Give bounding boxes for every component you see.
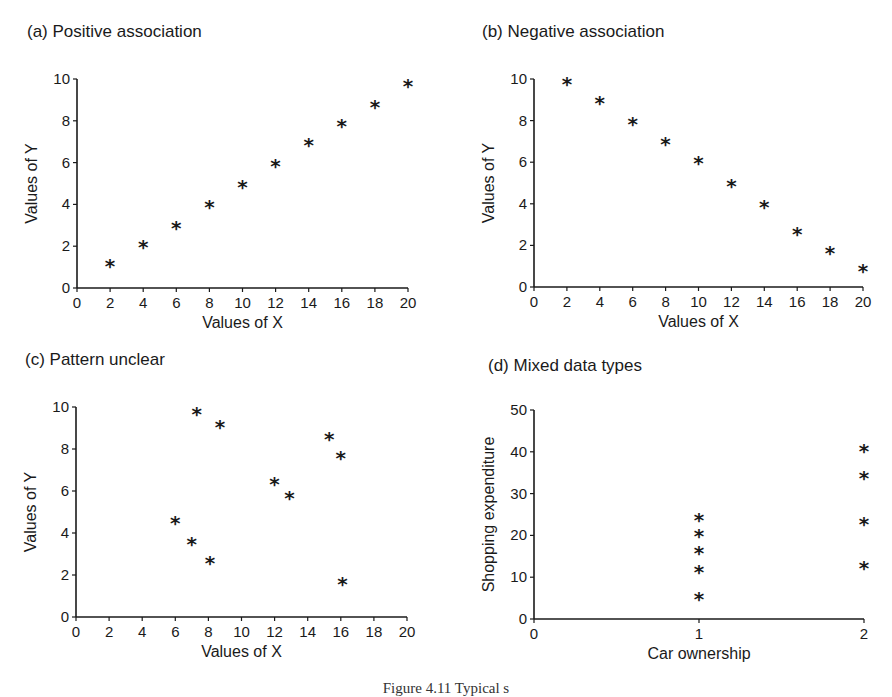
x-tick-label: 20: [855, 293, 872, 310]
x-tick-label: 6: [629, 293, 637, 310]
figure-caption: Figure 4.11 Typical s: [0, 680, 892, 697]
data-point-asterisk-icon: *: [825, 241, 836, 265]
scatter-plot-c: 024681012141618200246810Values of XValue…: [0, 340, 446, 660]
x-tick-label: 18: [367, 294, 384, 311]
y-tick-label: 0: [61, 608, 69, 625]
y-tick-label: 10: [510, 70, 527, 87]
data-point-asterisk-icon: *: [303, 133, 314, 157]
panel-c-pattern-unclear: (c) Pattern unclear 02468101214161820024…: [0, 340, 446, 660]
y-axis-label: Shopping expenditure: [480, 437, 497, 593]
data-point-asterisk-icon: *: [237, 175, 248, 199]
x-tick-label: 10: [233, 623, 250, 640]
y-tick-label: 50: [510, 401, 527, 418]
scatter-plot-b: 024681012141618200246810Values of XValue…: [446, 0, 892, 340]
y-tick-label: 2: [519, 236, 527, 253]
data-point-asterisk-icon: *: [859, 556, 870, 580]
y-tick-label: 8: [62, 112, 70, 129]
x-tick-label: 14: [299, 623, 316, 640]
x-axis-label: Values of X: [201, 643, 282, 660]
y-tick-label: 6: [61, 482, 69, 499]
panel-b-negative-association: (b) Negative association 024681012141618…: [446, 0, 892, 340]
data-point-asterisk-icon: *: [170, 511, 181, 535]
x-tick-label: 14: [756, 293, 773, 310]
scatter-plot-d: 01201020304050Car ownershipShopping expe…: [446, 340, 892, 660]
data-point-asterisk-icon: *: [337, 572, 348, 596]
x-axis-label: Car ownership: [647, 645, 750, 662]
data-point-asterisk-icon: *: [370, 95, 381, 119]
data-point-asterisk-icon: *: [105, 254, 116, 278]
data-point-asterisk-icon: *: [595, 91, 606, 115]
data-point-asterisk-icon: *: [759, 195, 770, 219]
x-tick-label: 4: [596, 293, 604, 310]
x-tick-label: 20: [400, 294, 417, 311]
y-tick-label: 0: [62, 279, 70, 296]
x-tick-label: 8: [661, 293, 669, 310]
x-tick-label: 2: [860, 625, 868, 642]
y-tick-label: 6: [519, 153, 527, 170]
x-tick-label: 6: [171, 623, 179, 640]
data-point-asterisk-icon: *: [403, 74, 414, 98]
data-point-asterisk-icon: *: [627, 112, 638, 136]
x-tick-label: 12: [723, 293, 740, 310]
y-axis-label: Values of Y: [23, 143, 40, 224]
y-tick-label: 8: [519, 112, 527, 129]
data-point-asterisk-icon: *: [337, 114, 348, 138]
data-point-asterisk-icon: *: [859, 512, 870, 536]
x-tick-label: 14: [300, 294, 317, 311]
x-tick-label: 0: [72, 623, 80, 640]
x-tick-label: 18: [822, 293, 839, 310]
data-point-asterisk-icon: *: [324, 427, 335, 451]
y-axis-label: Values of Y: [480, 143, 497, 224]
data-point-asterisk-icon: *: [726, 174, 737, 198]
data-point-asterisk-icon: *: [660, 132, 671, 156]
data-point-asterisk-icon: *: [693, 151, 704, 175]
x-tick-label: 12: [267, 294, 284, 311]
y-tick-label: 4: [62, 195, 70, 212]
y-tick-label: 0: [519, 610, 527, 627]
x-tick-label: 16: [333, 294, 350, 311]
x-tick-label: 20: [399, 623, 416, 640]
y-axis-label: Values of Y: [22, 472, 39, 553]
data-point-asterisk-icon: *: [562, 72, 573, 96]
x-tick-label: 10: [234, 294, 251, 311]
data-point-asterisk-icon: *: [215, 415, 226, 439]
y-tick-label: 4: [61, 524, 69, 541]
data-point-asterisk-icon: *: [792, 222, 803, 246]
x-tick-label: 8: [205, 294, 213, 311]
data-point-asterisk-icon: *: [284, 486, 295, 510]
data-point-asterisk-icon: *: [269, 472, 280, 496]
data-point-asterisk-icon: *: [205, 551, 216, 575]
y-tick-label: 2: [61, 566, 69, 583]
data-point-asterisk-icon: *: [187, 532, 198, 556]
y-tick-label: 10: [510, 568, 527, 585]
x-tick-label: 2: [563, 293, 571, 310]
data-point-asterisk-icon: *: [138, 235, 149, 259]
data-point-asterisk-icon: *: [859, 439, 870, 463]
x-axis-label: Values of X: [202, 314, 283, 331]
x-tick-label: 10: [690, 293, 707, 310]
data-point-asterisk-icon: *: [192, 402, 203, 426]
x-tick-label: 4: [138, 623, 146, 640]
y-tick-label: 10: [53, 70, 70, 87]
x-tick-label: 0: [73, 294, 81, 311]
x-tick-label: 16: [789, 293, 806, 310]
x-axis-label: Values of X: [658, 313, 739, 330]
x-tick-label: 2: [105, 623, 113, 640]
x-tick-label: 16: [332, 623, 349, 640]
data-point-asterisk-icon: *: [204, 195, 215, 219]
x-tick-label: 6: [172, 294, 180, 311]
x-tick-label: 8: [204, 623, 212, 640]
data-point-asterisk-icon: *: [694, 560, 705, 584]
scatter-plot-a: 024681012141618200246810Values of XValue…: [0, 0, 446, 340]
y-tick-label: 30: [510, 485, 527, 502]
y-tick-label: 0: [519, 278, 527, 295]
data-point-asterisk-icon: *: [336, 446, 347, 470]
y-tick-label: 40: [510, 443, 527, 460]
y-tick-label: 10: [52, 398, 69, 415]
x-tick-label: 2: [106, 294, 114, 311]
x-tick-label: 0: [530, 625, 538, 642]
x-tick-label: 1: [695, 625, 703, 642]
y-tick-label: 2: [62, 237, 70, 254]
x-tick-label: 4: [139, 294, 147, 311]
y-tick-label: 8: [61, 440, 69, 457]
